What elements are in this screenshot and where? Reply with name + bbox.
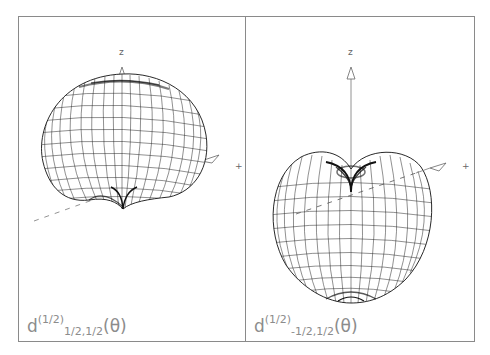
- caption-subscript: -1/2,1/2: [291, 325, 334, 338]
- caption-base: d: [27, 316, 38, 336]
- wireframe-plot-left: z +: [19, 17, 245, 341]
- caption-argument: (θ): [103, 316, 127, 336]
- z-axis-arrow-icon: [347, 67, 355, 79]
- caption-right: d(1/2)-1/2,1/2(θ): [254, 318, 358, 335]
- caption-argument: (θ): [334, 316, 358, 336]
- panel-right: z: [246, 17, 474, 341]
- x-axis-arrow-icon: [430, 163, 446, 171]
- z-axis-label: z: [348, 47, 353, 57]
- x-axis-label: +: [462, 161, 470, 171]
- caption-left: d(1/2)1/2,1/2(θ): [27, 318, 127, 335]
- z-axis-label: z: [119, 47, 124, 57]
- caption-subscript: 1/2,1/2: [64, 325, 103, 338]
- wireframe-plot-right: z: [246, 17, 474, 341]
- caption-superscript: (1/2): [265, 313, 291, 326]
- caption-superscript: (1/2): [38, 313, 64, 326]
- panel-left: z +: [19, 17, 245, 341]
- caption-base: d: [254, 316, 265, 336]
- x-axis-label: +: [235, 161, 243, 171]
